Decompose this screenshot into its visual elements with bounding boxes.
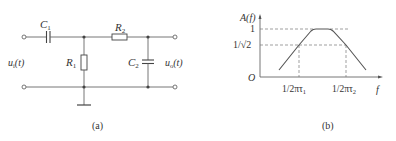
label-output-voltage: uo(t) bbox=[165, 57, 183, 69]
figure-canvas: C1 R2 R1 C2 ui(t) uo(t) (a) A(f) 1 1/√2 … bbox=[0, 0, 396, 141]
origin-label: O bbox=[248, 72, 255, 83]
capacitor-c1-symbol bbox=[47, 31, 51, 43]
y-tick-inv-sqrt2: 1/√2 bbox=[233, 39, 251, 50]
output-terminal-bottom bbox=[173, 85, 177, 89]
label-r2: R2 bbox=[114, 21, 126, 35]
circuit-diagram bbox=[22, 31, 177, 105]
label-r1: R1 bbox=[65, 56, 77, 70]
input-terminal-top bbox=[22, 35, 26, 39]
resistor-r1-symbol bbox=[81, 55, 87, 70]
dashed-guides bbox=[260, 29, 349, 77]
frequency-response-chart: A(f) 1 1/√2 O 1/2πτ1 1/2πτ2 f (b) bbox=[233, 12, 383, 132]
label-c2: C2 bbox=[128, 56, 139, 70]
x-axis-arrow-icon bbox=[378, 76, 383, 79]
input-terminal-bottom bbox=[22, 85, 26, 89]
x-axis-label: f bbox=[376, 84, 380, 95]
capacitor-c2-symbol bbox=[142, 60, 154, 64]
caption-b: (b) bbox=[322, 120, 334, 132]
label-c1: C1 bbox=[40, 18, 51, 32]
caption-a: (a) bbox=[92, 120, 103, 132]
x-tick-f2: 1/2πτ2 bbox=[332, 84, 356, 95]
response-curve bbox=[279, 29, 366, 70]
junction-dots bbox=[82, 35, 149, 88]
y-axis-arrow-icon bbox=[259, 14, 262, 19]
label-input-voltage: ui(t) bbox=[8, 57, 25, 69]
output-terminal-top bbox=[173, 35, 177, 39]
y-tick-1: 1 bbox=[250, 23, 255, 34]
x-tick-f1: 1/2πτ1 bbox=[282, 84, 306, 95]
